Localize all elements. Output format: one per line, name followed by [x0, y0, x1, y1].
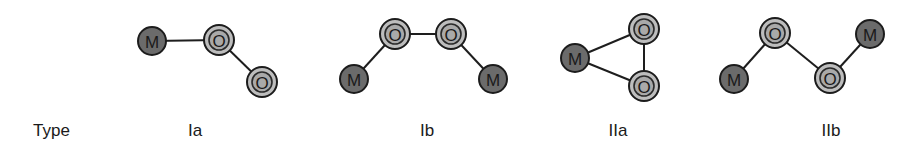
atom-label: M	[863, 26, 877, 45]
atom-label: O	[388, 26, 401, 45]
caption-ia: Ia	[188, 121, 203, 140]
structure-ib-bonds	[354, 34, 493, 79]
atom-label: O	[637, 21, 650, 40]
atom-label: O	[637, 78, 650, 97]
oxygen-atom-icon: O	[380, 19, 410, 49]
oxygen-atom-icon: O	[436, 19, 466, 49]
binding-types-diagram: MOOMOOMMOOMOOM Type Ia Ib IIa IIb	[0, 0, 899, 152]
caption-iia: IIa	[609, 121, 628, 140]
structure-ib-atoms: MOOM	[340, 19, 507, 93]
atom-label: O	[255, 74, 268, 93]
caption-iib: IIb	[822, 121, 841, 140]
oxygen-atom-icon: O	[247, 67, 277, 97]
structure-iib-bonds	[734, 33, 870, 79]
oxygen-atom-icon: O	[204, 25, 234, 55]
atom-label: O	[823, 70, 836, 89]
structure-ia-atoms: MOO	[138, 25, 277, 97]
oxygen-atom-icon: O	[629, 71, 659, 101]
oxygen-atom-icon: O	[815, 63, 845, 93]
metal-atom-icon: M	[561, 44, 589, 72]
oxygen-atom-icon: O	[760, 18, 790, 48]
caption-ib: Ib	[420, 121, 434, 140]
metal-atom-icon: M	[856, 20, 884, 48]
metal-atom-icon: M	[720, 65, 748, 93]
atom-label: O	[212, 32, 225, 51]
atoms-layer: MOOMOOMMOOMOOM	[138, 14, 884, 101]
atom-label: O	[768, 25, 781, 44]
atom-label: M	[568, 50, 582, 69]
atom-label: M	[347, 71, 361, 90]
metal-atom-icon: M	[340, 65, 368, 93]
labels-layer: Type Ia Ib IIa IIb	[33, 121, 840, 140]
metal-atom-icon: M	[138, 27, 166, 55]
oxygen-atom-icon: O	[629, 14, 659, 44]
atom-label: M	[486, 71, 500, 90]
metal-atom-icon: M	[479, 65, 507, 93]
atom-label: M	[727, 71, 741, 90]
atom-label: M	[145, 33, 159, 52]
row-label-type: Type	[33, 121, 70, 140]
atom-label: O	[444, 26, 457, 45]
